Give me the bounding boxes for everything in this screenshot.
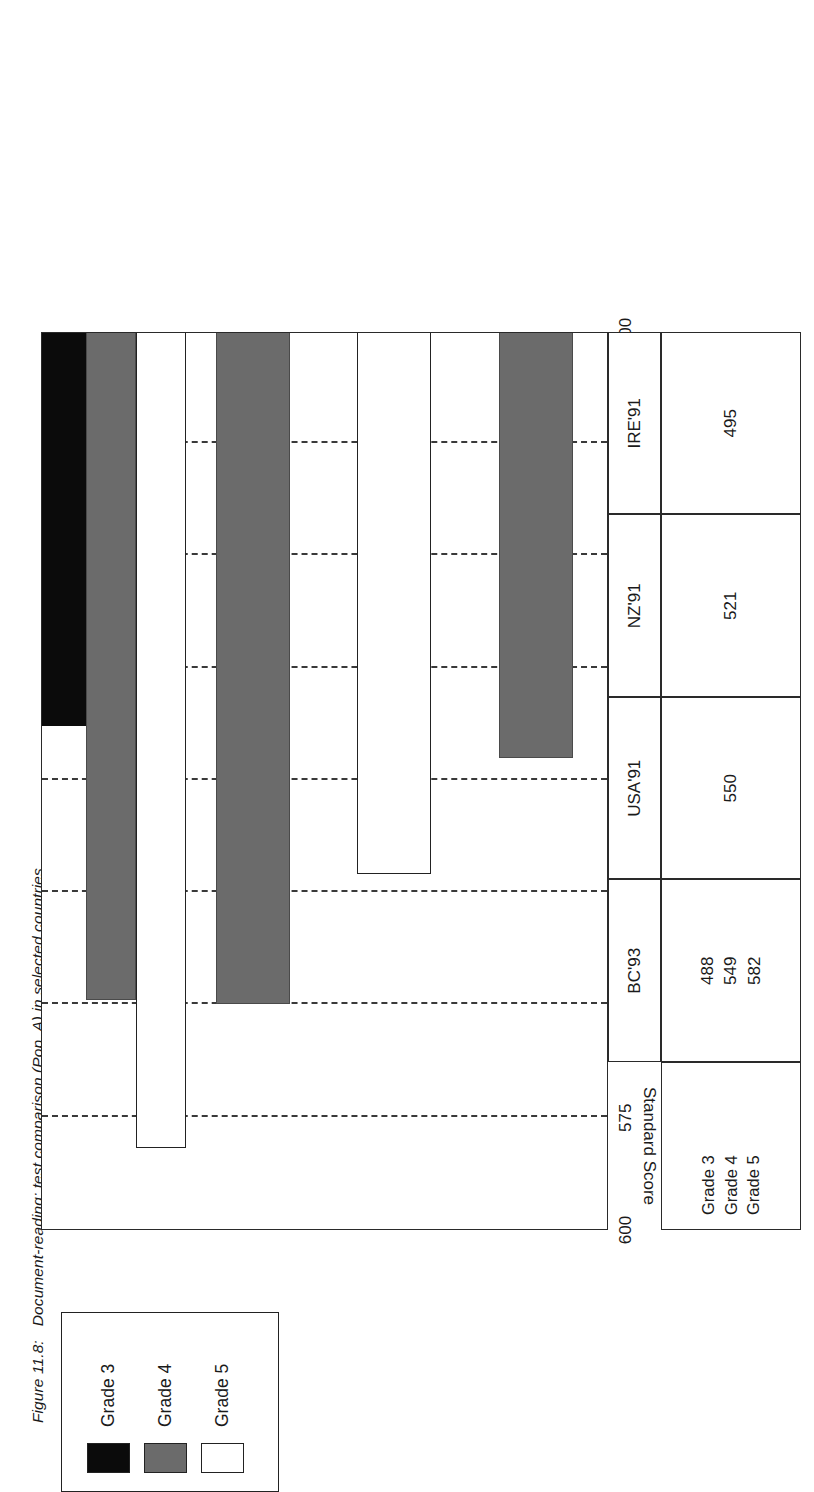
legend-swatch-icon: [87, 1443, 130, 1473]
legend-item-grade-4: Grade 4: [137, 1329, 194, 1473]
legend-item-grade-3: Grade 3: [80, 1329, 137, 1473]
bar-grade-5: [357, 332, 431, 874]
table-column-nz-91: 521: [661, 515, 801, 698]
figure-body: Grade 3 Grade 4 Grade 5 6005755505255004…: [41, 332, 801, 1492]
table-column-ire-91: 495: [661, 332, 801, 515]
legend-label: Grade 5: [212, 1364, 233, 1427]
bar-grade-4: [216, 332, 290, 1005]
table-column-usa-91: 550: [661, 697, 801, 880]
table-cell: 521: [719, 592, 742, 620]
table-row-headers: Grade 3 Grade 4 Grade 5: [661, 1062, 801, 1230]
table-cell: 488: [696, 957, 719, 985]
legend-swatch-icon: [201, 1443, 244, 1473]
legend-label: Grade 4: [155, 1364, 176, 1427]
table-cell: 549: [719, 957, 742, 985]
table-row-header: Grade 4: [720, 1063, 743, 1215]
table-cell: 495: [719, 409, 742, 437]
category-label-ire-91: IRE'91: [608, 332, 661, 515]
table-cell: 550: [719, 774, 742, 802]
category-label-nz-91: NZ'91: [608, 515, 661, 698]
bar-grade-4: [499, 332, 573, 758]
chart-block: 600575550525500475450425400 Standard Sco…: [41, 332, 801, 1230]
table-row-header: Grade 3: [697, 1063, 720, 1215]
legend-swatch-icon: [144, 1443, 187, 1473]
bar-grade-4: [86, 332, 136, 1000]
legend-item-grade-5: Grade 5: [194, 1329, 251, 1473]
legend-label: Grade 3: [98, 1364, 119, 1427]
table-column-bc-93: 488549582: [661, 880, 801, 1063]
category-label-usa-91: USA'91: [608, 697, 661, 880]
category-label-row: BC'93USA'91NZ'91IRE'91: [608, 332, 661, 1230]
bar-grade-3: [41, 332, 86, 726]
bar-grade-5: [136, 332, 186, 1148]
table-row-header: Grade 5: [742, 1063, 765, 1215]
category-label-bc-93: BC'93: [608, 880, 661, 1063]
chart-legend: Grade 3 Grade 4 Grade 5: [61, 1312, 279, 1492]
table-cell: 582: [743, 957, 766, 985]
data-table: Grade 3 Grade 4 Grade 5 4885495825505214…: [661, 332, 801, 1230]
